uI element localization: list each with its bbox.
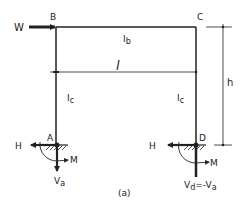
reaction-v-a-label: Va	[54, 176, 65, 188]
right-column-inertia-label: Ic	[177, 93, 184, 105]
reaction-h-a-label: H	[15, 141, 22, 151]
node-b-label: B	[50, 12, 56, 22]
reaction-m-d-label: M	[210, 158, 218, 168]
load-w-label: W	[14, 22, 24, 33]
support-d	[168, 142, 209, 177]
height-tick-top	[222, 26, 225, 29]
node-d-label: D	[199, 133, 206, 143]
reaction-h-d-label: H	[149, 141, 156, 151]
node-a-label: A	[47, 133, 54, 143]
height-tick-bottom	[222, 144, 225, 147]
figure-caption: (a)	[118, 188, 131, 198]
beam-inertia-label: Ib	[123, 34, 131, 46]
height-label: h	[227, 77, 233, 88]
span-label: l	[116, 58, 120, 73]
reaction-v-d-label: Vd=-Va	[184, 180, 217, 192]
support-a	[31, 142, 68, 171]
reaction-m-a-label: M	[70, 155, 78, 165]
portal-frame-diagram: W B C Ib l Ic Ic h A H M	[0, 0, 245, 210]
left-column-inertia-label: Ic	[67, 93, 74, 105]
span-tick-right	[195, 71, 198, 74]
node-c-label: C	[197, 12, 203, 22]
